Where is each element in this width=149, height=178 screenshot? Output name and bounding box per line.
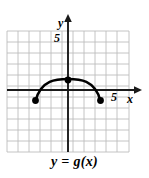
curve-point-left-endpoint (32, 97, 39, 104)
y-axis-label: y (56, 16, 64, 30)
curve-point-right-endpoint (97, 97, 104, 104)
curve-point-vertex (65, 77, 72, 84)
y-axis-arrowhead (64, 14, 72, 22)
x-axis-arrowhead (134, 86, 142, 94)
x-axis-tick-5: 5 (111, 90, 117, 104)
x-axis-label: x (126, 92, 133, 106)
coordinate-plane-svg: y 5 x 5 (0, 0, 149, 178)
figure-caption: y = g(x) (0, 154, 149, 170)
graph-figure: y 5 x 5 (0, 0, 149, 178)
y-axis-tick-5: 5 (54, 31, 60, 45)
